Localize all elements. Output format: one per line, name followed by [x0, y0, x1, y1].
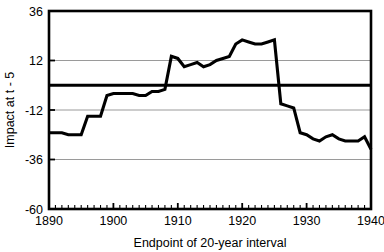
x-tick-label: 1920: [228, 214, 256, 228]
y-axis-title: Impact at t - 5: [3, 72, 17, 148]
impact-line-chart: 189019001910192019301940 3612-12-36-60 E…: [0, 0, 384, 252]
x-tick-label: 1940: [357, 214, 384, 228]
x-tick-label: 1910: [164, 214, 192, 228]
y-tick-label: -60: [25, 203, 43, 217]
y-tick-label: -12: [25, 104, 43, 118]
x-tick-label: 1930: [293, 214, 321, 228]
y-tick-label: 36: [29, 5, 43, 19]
x-tick-label: 1900: [99, 214, 127, 228]
y-tick-label: 12: [29, 54, 43, 68]
x-axis-title: Endpoint of 20-year interval: [134, 236, 287, 250]
chart-container: 189019001910192019301940 3612-12-36-60 E…: [0, 0, 384, 252]
y-tick-label: -36: [25, 153, 43, 167]
